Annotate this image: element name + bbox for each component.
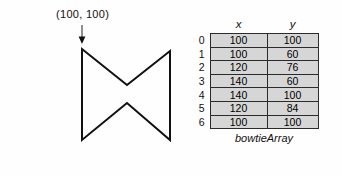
- y-value: 84: [267, 101, 318, 115]
- x-value: 120: [210, 101, 267, 115]
- y-value: 76: [267, 61, 318, 75]
- x-value: 140: [210, 88, 267, 102]
- row-index: 4: [193, 88, 210, 102]
- row-index: 3: [193, 74, 210, 88]
- x-value: 140: [210, 74, 267, 88]
- table-row: 3 140 60: [193, 74, 318, 88]
- y-value: 60: [267, 74, 318, 88]
- bowtie-polygon: [82, 49, 170, 140]
- x-value: 100: [210, 47, 267, 61]
- table-row: 2 120 76: [193, 61, 318, 75]
- row-index: 6: [193, 115, 210, 129]
- column-header-y: y: [267, 15, 318, 34]
- table-row: 5 120 84: [193, 101, 318, 115]
- y-value: 60: [267, 47, 318, 61]
- coordinate-table-block: x y 0 100 100 1 100 60 2 120 76: [193, 15, 319, 144]
- row-index: 0: [193, 34, 210, 48]
- table-row: 1 100 60: [193, 47, 318, 61]
- diagram-canvas: (100, 100) x y 0 100 100 1: [0, 0, 342, 176]
- annotation-arrowhead-icon: [79, 37, 86, 45]
- row-index: 1: [193, 47, 210, 61]
- table-row: 4 140 100: [193, 88, 318, 102]
- table-corner-spacer: [193, 15, 210, 34]
- table-caption: bowtieArray: [210, 132, 318, 144]
- y-value: 100: [267, 88, 318, 102]
- x-value: 120: [210, 61, 267, 75]
- table-row: 6 100 100: [193, 115, 318, 129]
- y-value: 100: [267, 115, 318, 129]
- row-index: 2: [193, 61, 210, 75]
- table-row: 0 100 100: [193, 34, 318, 48]
- y-value: 100: [267, 34, 318, 48]
- row-index: 5: [193, 101, 210, 115]
- coordinate-table: x y 0 100 100 1 100 60 2 120 76: [193, 15, 319, 129]
- x-value: 100: [210, 34, 267, 48]
- table-header-row: x y: [193, 15, 318, 34]
- bowtie-figure: [0, 0, 200, 176]
- column-header-x: x: [210, 15, 267, 34]
- x-value: 100: [210, 115, 267, 129]
